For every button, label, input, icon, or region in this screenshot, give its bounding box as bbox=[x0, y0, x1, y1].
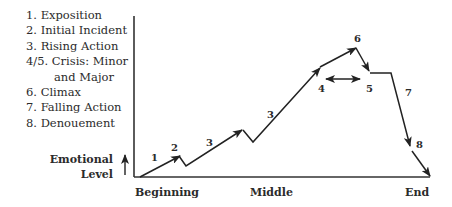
segment-denouement bbox=[412, 151, 430, 176]
x-tick-beginning: Beginning bbox=[135, 186, 199, 199]
label-6: 6 bbox=[354, 33, 361, 44]
x-tick-middle: Middle bbox=[250, 186, 293, 199]
y-label-emotional: Emotional bbox=[50, 153, 113, 166]
segment-after-climax bbox=[356, 48, 369, 71]
label-2: 2 bbox=[171, 142, 178, 153]
segment-rising-action bbox=[243, 68, 320, 142]
x-tick-end: End bbox=[405, 186, 429, 199]
segment-exposition bbox=[140, 156, 180, 177]
segment-initial-incident bbox=[179, 130, 242, 166]
segment-falling-action bbox=[370, 73, 410, 146]
label-7: 7 bbox=[405, 87, 412, 98]
y-label-level: Level bbox=[81, 168, 113, 181]
label-5: 5 bbox=[366, 83, 373, 94]
plot-diagram: 1 2 3 3 4 5 6 7 8 Emotional Level Beginn… bbox=[0, 0, 452, 207]
segment-to-climax bbox=[320, 48, 356, 67]
label-8: 8 bbox=[416, 139, 423, 150]
label-3b: 3 bbox=[267, 109, 274, 120]
label-3a: 3 bbox=[206, 137, 213, 148]
label-1: 1 bbox=[151, 152, 158, 163]
label-4: 4 bbox=[318, 83, 325, 94]
